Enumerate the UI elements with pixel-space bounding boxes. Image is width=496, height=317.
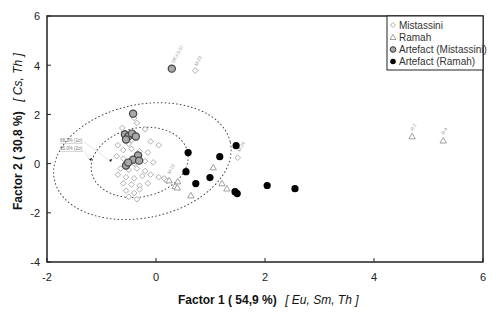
black-circle-marker <box>216 153 223 160</box>
grey-circle-marker <box>130 110 137 117</box>
grey-circle-marker <box>132 133 139 140</box>
black-circle-icon <box>390 59 396 65</box>
legend-item-mistassini: Mistassini <box>391 20 443 31</box>
legend-label: Artefact (Ramah) <box>399 56 475 67</box>
black-circle-marker <box>192 180 199 187</box>
y-tick-6: 6 <box>34 10 40 22</box>
y-tick-neg2: -2 <box>30 207 40 219</box>
grey-circle-marker <box>136 157 143 164</box>
x-tick-4: 4 <box>371 271 377 283</box>
black-circle-marker <box>234 190 241 197</box>
legend-label: Ramah <box>399 32 431 43</box>
scatter-chart: 6 4 2 0 -2 -4 -2 0 2 4 6 Factor 1 ( 54,9… <box>0 0 496 317</box>
y-tick-labels: 6 4 2 0 -2 -4 <box>30 10 40 268</box>
legend-item-artefact-mistassini: Artefact (Mistassini) <box>390 44 487 55</box>
grey-circle-marker <box>122 136 129 143</box>
y-tick-4: 4 <box>34 60 40 72</box>
black-circle-marker <box>182 168 189 175</box>
grey-circle-icon <box>390 47 396 53</box>
grey-circle-marker <box>168 65 175 72</box>
black-circle-marker <box>291 185 298 192</box>
x-tick-6: 6 <box>480 271 486 283</box>
x-tick-labels: -2 0 2 4 6 <box>42 271 486 283</box>
x-axis-title-main: Factor 1 ( 54,9 %) <box>178 293 277 307</box>
y-tick-0: 0 <box>34 158 40 170</box>
black-circle-marker <box>264 182 271 189</box>
legend-label: Mistassini <box>399 20 443 31</box>
legend-label: Artefact (Mistassini) <box>399 44 487 55</box>
grey-circle-marker <box>125 159 132 166</box>
x-axis-title-elements: [ Eu, Sm, Th ] <box>284 293 359 307</box>
black-circle-marker <box>206 174 213 181</box>
x-tick-neg2: -2 <box>42 271 52 283</box>
y-axis-title-main: Factor 2 ( 30,8 %) <box>11 111 25 210</box>
y-axis-title-elements: [ Cs, Th ] <box>11 53 25 103</box>
annotation-2-sigma: 95.0% (2σ) <box>60 146 83 151</box>
annotation-1-sigma: 68.3% (1σ) <box>60 138 83 143</box>
y-axis-title: Factor 2 ( 30,8 %) [ Cs, Th ] <box>8 53 25 210</box>
x-tick-0: 0 <box>153 271 159 283</box>
x-tick-2: 2 <box>262 271 268 283</box>
y-tick-neg4: -4 <box>30 256 40 268</box>
black-circle-marker <box>185 149 192 156</box>
legend: Mistassini Ramah Artefact (Mistassini) A… <box>387 16 487 70</box>
legend-item-artefact-ramah: Artefact (Ramah) <box>390 56 475 67</box>
y-tick-2: 2 <box>34 109 40 121</box>
x-axis-title: Factor 1 ( 54,9 %) [ Eu, Sm, Th ] <box>178 290 359 307</box>
